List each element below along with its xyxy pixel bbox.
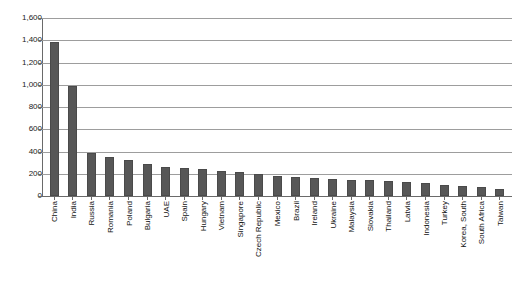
x-axis-label-slot: Turkey <box>435 201 454 285</box>
x-axis-tick-label: Thailand <box>384 201 393 232</box>
x-axis-label-slot: Ireland <box>305 201 324 285</box>
bar-slot <box>212 18 231 196</box>
x-axis-tick-mark <box>351 196 352 200</box>
x-axis-tick-label: Mexico <box>273 201 282 226</box>
bar-slot <box>156 18 175 196</box>
x-axis-label-slot: Romania <box>101 201 120 285</box>
bar <box>310 178 319 196</box>
x-axis-label-slot: China <box>45 201 64 285</box>
bar <box>402 182 411 196</box>
x-axis-label-slot: Ukraine <box>323 201 342 285</box>
y-axis-tick-label: 400 <box>6 148 42 156</box>
bar <box>217 171 226 196</box>
bar <box>421 183 430 196</box>
x-axis-tick-mark <box>239 196 240 200</box>
x-axis-tick-mark <box>462 196 463 200</box>
x-axis-tick <box>361 196 380 200</box>
x-axis-tick <box>212 196 231 200</box>
x-axis-tick-mark <box>369 196 370 200</box>
x-axis-tick <box>231 196 250 200</box>
bar-slot <box>194 18 213 196</box>
x-axis-tick-label: Bulgaria <box>143 201 152 230</box>
x-axis-tick <box>323 196 342 200</box>
x-axis-label-slot: Russia <box>82 201 101 285</box>
x-axis-tick-label: Malaysia <box>347 201 356 233</box>
plot-area <box>42 18 512 196</box>
x-axis-tick-mark <box>314 196 315 200</box>
x-axis-tick <box>156 196 175 200</box>
y-axis-tick-label: 600 <box>6 125 42 133</box>
x-axis-label-slot: Spain <box>175 201 194 285</box>
x-axis-label-slot: Korea, South <box>453 201 472 285</box>
x-axis-tick <box>249 196 268 200</box>
bar-slot <box>268 18 287 196</box>
x-axis-tick-label: Poland <box>125 201 134 226</box>
x-axis-tick-mark <box>128 196 129 200</box>
x-axis-tick <box>101 196 120 200</box>
x-axis-tick-label: Ukraine <box>329 201 338 229</box>
bar-slot <box>491 18 510 196</box>
x-axis-tick-label: Brazil <box>292 201 301 221</box>
x-axis-label-slot: Poland <box>119 201 138 285</box>
bar <box>105 157 114 196</box>
bar-slot <box>361 18 380 196</box>
bar-slot <box>305 18 324 196</box>
y-axis-tick-label: 1,600 <box>6 14 42 22</box>
x-axis-tick <box>82 196 101 200</box>
bar <box>384 181 393 196</box>
bar-slot <box>138 18 157 196</box>
x-axis-tick-mark <box>481 196 482 200</box>
x-axis-label-slot: Bulgaria <box>138 201 157 285</box>
bar <box>328 179 337 196</box>
bar-slot <box>249 18 268 196</box>
x-axis-tick <box>453 196 472 200</box>
bar-slot <box>379 18 398 196</box>
bar <box>347 180 356 196</box>
x-axis-tick-label: Taiwan <box>496 201 505 226</box>
x-axis-tick <box>286 196 305 200</box>
x-axis-label-slot: Thailand <box>379 201 398 285</box>
bar-slot <box>119 18 138 196</box>
x-axis-tick-mark <box>54 196 55 200</box>
x-axis-tick <box>64 196 83 200</box>
x-axis-tick-mark <box>91 196 92 200</box>
x-axis-label-slot: Singapore <box>231 201 250 285</box>
x-axis-label-slot: Mexico <box>268 201 287 285</box>
bar-slot <box>175 18 194 196</box>
bar <box>291 177 300 196</box>
x-axis-tick <box>342 196 361 200</box>
x-axis-tick <box>305 196 324 200</box>
x-axis-tick <box>268 196 287 200</box>
x-axis-tick-mark <box>406 196 407 200</box>
bar-slot <box>231 18 250 196</box>
x-axis-label-slot: Vietnam <box>212 201 231 285</box>
x-axis-tick-label: China <box>50 201 59 222</box>
x-axis-tick-mark <box>444 196 445 200</box>
bar-series <box>42 18 512 196</box>
x-axis-tick-label: Czech Republic <box>254 201 263 257</box>
bar <box>143 164 152 196</box>
y-axis-tick-label: 1,000 <box>6 81 42 89</box>
bar-slot <box>435 18 454 196</box>
x-axis-tick <box>379 196 398 200</box>
x-axis-tick-label: Hungary <box>199 201 208 231</box>
bar-slot <box>472 18 491 196</box>
x-axis-tick-mark <box>295 196 296 200</box>
x-axis-label-slot: Indonesia <box>416 201 435 285</box>
x-axis-tick <box>435 196 454 200</box>
x-axis-label-slot: India <box>64 201 83 285</box>
bar <box>198 169 207 196</box>
x-axis-tick-label: Singapore <box>236 201 245 237</box>
x-axis-tick-label: Ireland <box>310 201 319 225</box>
x-axis-label-slot: Taiwan <box>491 201 510 285</box>
x-axis-tick-mark <box>72 196 73 200</box>
bar <box>254 174 263 196</box>
x-axis-tick-label: Turkey <box>440 201 449 225</box>
x-axis-tick-mark <box>388 196 389 200</box>
x-axis-tick-label: UAE <box>162 201 171 217</box>
bar-slot <box>416 18 435 196</box>
x-axis-tick-mark <box>258 196 259 200</box>
bar <box>477 187 486 196</box>
y-axis-tick-label: 800 <box>6 103 42 111</box>
x-axis-tick-label: Vietnam <box>217 201 226 230</box>
